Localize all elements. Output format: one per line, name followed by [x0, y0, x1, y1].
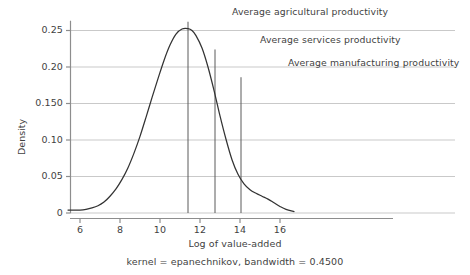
x-tick-label: 14: [220, 224, 260, 235]
annotation-label-manufacturing: Average manufacturing productivity: [288, 57, 459, 68]
chart-caption: kernel = epanechnikov, bandwidth = 0.450…: [0, 256, 470, 267]
x-axis-title: Log of value-added: [0, 238, 470, 249]
y-tick-label: 0.10: [41, 134, 63, 145]
density-curve-path: [68, 28, 294, 211]
y-axis-title: Density: [16, 119, 27, 155]
x-tick-label: 16: [260, 224, 300, 235]
x-tick-label: 10: [140, 224, 180, 235]
y-axis: [66, 21, 71, 213]
density-plot-figure: 00.050.100.1500.200.25 6810121416 Densit…: [0, 0, 470, 275]
x-tick-label: 8: [100, 224, 140, 235]
y-tick-label: 0.150: [35, 97, 63, 108]
annotation-rules: [188, 22, 241, 213]
annotation-label-services: Average services productivity: [260, 34, 401, 45]
x-tick-label: 6: [60, 224, 100, 235]
x-axis: [70, 219, 393, 224]
y-tick-label: 0.20: [41, 61, 63, 72]
density-curve: [68, 28, 294, 211]
y-tick-label: 0: [57, 207, 63, 218]
y-tick-label: 0.25: [41, 24, 63, 35]
annotation-label-agricultural: Average agricultural productivity: [232, 6, 388, 17]
y-tick-label: 0.05: [41, 170, 63, 181]
x-tick-label: 12: [180, 224, 220, 235]
